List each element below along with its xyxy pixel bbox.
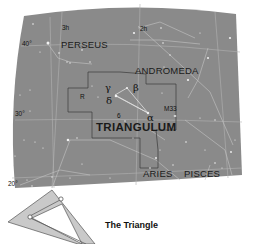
sky-panel (13, 7, 242, 188)
dec-label-40: 40° (22, 41, 32, 48)
star-label-beta: β (133, 83, 139, 93)
ra-label-3h: 3h (62, 25, 69, 32)
star-label-alpha: α (147, 113, 154, 123)
triangle-inset-graphic (8, 190, 95, 244)
constellation-label-perseus: PERSEUS (61, 40, 108, 50)
constellation-label-aries: ARIES (143, 169, 173, 179)
constellation-label-andromeda: ANDROMEDA (135, 66, 199, 76)
inset-caption: The Triangle (105, 221, 158, 230)
dec-label-20: 20° (8, 181, 18, 188)
star-label-delta: δ (106, 96, 112, 106)
constellation-label-pisces: PISCES (184, 169, 220, 179)
star-label-6: 6 (117, 113, 121, 120)
deep-sky-label-m33: M33 (164, 106, 177, 113)
constellation-label-triangulum: TRIANGULUM (96, 122, 176, 134)
m33-marker (174, 115, 177, 117)
star-label-gamma: γ (105, 83, 111, 93)
dec-label-30: 30° (15, 111, 25, 118)
star-label-r: R (80, 94, 85, 101)
ra-label-2h: 2h (140, 26, 147, 33)
